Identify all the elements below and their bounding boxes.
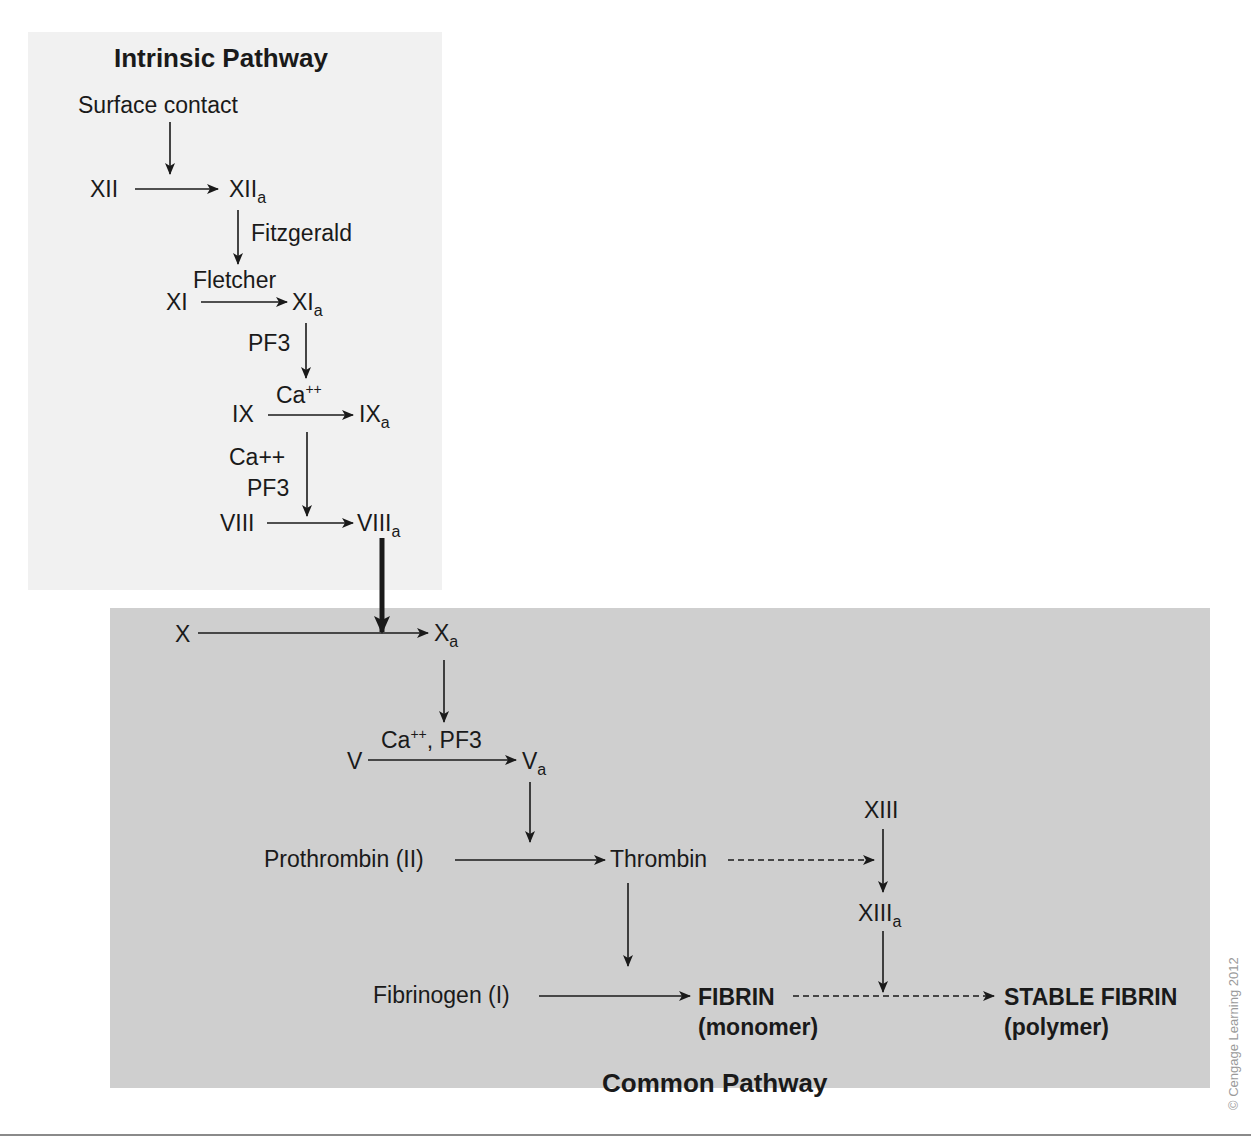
pf3-label: PF3 xyxy=(248,332,290,355)
factor-xii: XII xyxy=(90,178,118,201)
fletcher-label: Fletcher xyxy=(193,269,276,292)
factor-viiia: VIIIa xyxy=(357,512,400,535)
fibrin-label: FIBRIN xyxy=(698,986,775,1009)
fibrin-monomer-label: (monomer) xyxy=(698,1016,818,1039)
factor-xiii: XIII xyxy=(864,799,899,822)
factor-va: Va xyxy=(522,750,546,773)
prothrombin-label: Prothrombin (II) xyxy=(264,848,424,871)
factor-viii: VIII xyxy=(220,512,255,535)
stable-fibrin-label: STABLE FIBRIN xyxy=(1004,986,1177,1009)
thrombin-label: Thrombin xyxy=(610,848,707,871)
factor-xia: XIa xyxy=(292,291,323,314)
factor-ixa: IXa xyxy=(359,403,390,426)
factor-xiiia: XIIIa xyxy=(858,902,901,925)
stable-fibrin-polymer-label: (polymer) xyxy=(1004,1016,1109,1039)
intrinsic-pathway-title: Intrinsic Pathway xyxy=(114,45,328,71)
factor-v: V xyxy=(347,750,362,773)
calcium-label: Ca++ xyxy=(276,384,322,407)
fitzgerald-label: Fitzgerald xyxy=(251,222,352,245)
copyright-notice: © Cengage Learning 2012 xyxy=(1226,957,1241,1110)
factor-ix: IX xyxy=(232,403,254,426)
fibrinogen-label: Fibrinogen (I) xyxy=(373,984,510,1007)
common-pathway-title: Common Pathway xyxy=(602,1070,827,1096)
factor-xi: XI xyxy=(166,291,188,314)
factor-xa: Xa xyxy=(434,622,458,645)
calcium-label-2: Ca++ xyxy=(229,446,285,469)
factor-x: X xyxy=(175,623,190,646)
factor-xiia: XIIa xyxy=(229,178,266,201)
surface-contact-label: Surface contact xyxy=(78,94,238,117)
cofactor-label: Ca++, PF3 xyxy=(381,729,482,752)
pathway-arrows xyxy=(0,0,1251,1146)
bottom-divider xyxy=(0,1134,1251,1136)
pf3-label-2: PF3 xyxy=(247,477,289,500)
